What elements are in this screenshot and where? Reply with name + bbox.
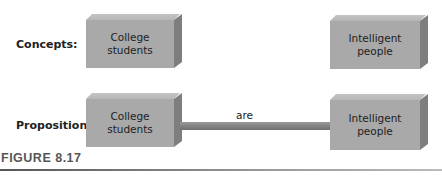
link-label: are xyxy=(236,109,253,121)
figure-caption: FIGURE 8.17 xyxy=(1,151,82,165)
concept-text: Intelligent people xyxy=(345,112,405,138)
proposition-label: Proposition: xyxy=(16,119,92,132)
proposition-box-intelligent-people: Intelligent people xyxy=(330,94,428,150)
box-side-face xyxy=(174,14,182,68)
concepts-label: Concepts: xyxy=(16,38,78,51)
concept-box-intelligent-people: Intelligent people xyxy=(330,15,428,69)
caption-rule xyxy=(0,169,442,171)
link-bar xyxy=(180,122,331,130)
box-front-face: College students xyxy=(86,20,174,68)
box-side-face xyxy=(420,94,428,150)
box-front-face: College students xyxy=(86,99,174,147)
concept-text: College students xyxy=(100,110,160,136)
box-front-face: Intelligent people xyxy=(330,100,420,150)
box-front-face: Intelligent people xyxy=(330,21,420,69)
box-side-face xyxy=(174,93,182,147)
concept-text: Intelligent people xyxy=(345,32,405,58)
box-side-face xyxy=(420,15,428,69)
concept-box-college-students: College students xyxy=(86,14,182,68)
proposition-box-college-students: College students xyxy=(86,93,182,147)
concept-text: College students xyxy=(100,31,160,57)
